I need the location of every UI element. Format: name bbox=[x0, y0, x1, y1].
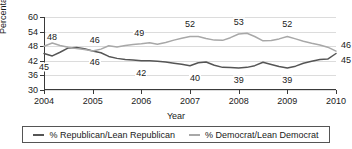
data-label: 40 bbox=[189, 73, 201, 82]
legend-swatch-republican bbox=[33, 134, 44, 136]
data-label: 46 bbox=[89, 36, 101, 45]
data-label: 46 bbox=[340, 41, 352, 50]
y-tick-label: 48 bbox=[28, 41, 38, 51]
x-tick-label: 2004 bbox=[34, 96, 54, 106]
x-axis-label: Year bbox=[0, 111, 352, 121]
x-tick bbox=[336, 90, 337, 94]
chart-legend: % Republican/Lean Republican % Democrat/… bbox=[22, 126, 330, 143]
data-label: 48 bbox=[46, 33, 58, 42]
data-label: 52 bbox=[184, 20, 196, 29]
x-tick bbox=[44, 90, 45, 94]
legend-item-democrat[interactable]: % Democrat/Lean Democrat bbox=[189, 130, 319, 140]
data-label: 45 bbox=[38, 62, 50, 71]
x-tick-label: 2006 bbox=[131, 96, 151, 106]
legend-label-republican: % Republican/Lean Republican bbox=[49, 130, 175, 140]
data-label: 52 bbox=[281, 20, 293, 29]
x-tick bbox=[141, 90, 142, 94]
x-tick-label: 2009 bbox=[277, 96, 297, 106]
plot-area: 303642485460 200420052006200720082009201… bbox=[44, 17, 336, 90]
x-tick bbox=[93, 90, 94, 94]
x-tick bbox=[239, 90, 240, 94]
y-tick-label: 54 bbox=[28, 27, 38, 37]
data-label: 39 bbox=[233, 76, 245, 85]
y-axis-label: Percentage bbox=[0, 0, 8, 34]
legend-swatch-democrat bbox=[189, 134, 200, 136]
x-tick bbox=[190, 90, 191, 94]
data-label: 53 bbox=[233, 18, 245, 27]
data-label: 45 bbox=[340, 55, 352, 64]
x-tick-label: 2007 bbox=[180, 96, 200, 106]
chart-container: Percentage 303642485460 2004200520062007… bbox=[0, 0, 352, 149]
y-tick-label: 30 bbox=[28, 85, 38, 95]
legend-item-republican[interactable]: % Republican/Lean Republican bbox=[33, 130, 175, 140]
x-tick bbox=[287, 90, 288, 94]
x-tick-label: 2010 bbox=[326, 96, 346, 106]
data-label: 39 bbox=[281, 76, 293, 85]
y-tick-label: 60 bbox=[28, 12, 38, 22]
y-tick-label: 42 bbox=[28, 56, 38, 66]
data-label: 42 bbox=[135, 68, 147, 77]
data-label: 46 bbox=[89, 58, 101, 67]
legend-label-democrat: % Democrat/Lean Democrat bbox=[205, 130, 319, 140]
x-tick-label: 2005 bbox=[83, 96, 103, 106]
y-tick-label: 36 bbox=[28, 70, 38, 80]
x-tick-label: 2008 bbox=[229, 96, 249, 106]
data-label: 49 bbox=[133, 28, 145, 37]
